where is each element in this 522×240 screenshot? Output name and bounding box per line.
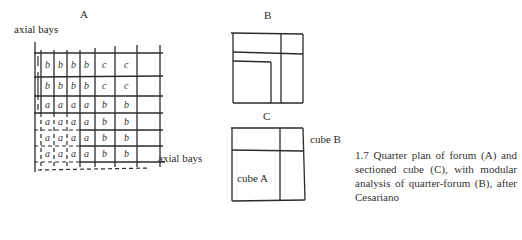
panel-b-diagram <box>231 33 303 103</box>
svg-text:b: b <box>58 59 63 70</box>
plan-a-grid <box>34 42 165 172</box>
svg-text:a: a <box>58 132 63 143</box>
svg-text:b: b <box>45 59 50 70</box>
svg-text:b: b <box>124 99 129 110</box>
svg-text:b: b <box>102 99 107 110</box>
svg-text:a: a <box>45 99 50 110</box>
svg-text:b: b <box>58 80 63 91</box>
svg-text:c: c <box>102 80 107 91</box>
svg-text:c: c <box>102 59 107 70</box>
svg-text:b: b <box>102 116 107 127</box>
svg-text:a: a <box>45 116 50 127</box>
svg-text:a: a <box>45 148 50 159</box>
svg-text:a: a <box>84 99 89 110</box>
svg-text:a: a <box>71 99 76 110</box>
svg-text:b: b <box>84 80 89 91</box>
svg-text:b: b <box>124 132 129 143</box>
svg-text:a: a <box>84 148 89 159</box>
svg-text:c: c <box>124 80 129 91</box>
svg-text:a: a <box>71 148 76 159</box>
svg-text:b: b <box>124 148 129 159</box>
svg-text:a: a <box>45 132 50 143</box>
svg-text:a: a <box>71 116 76 127</box>
svg-text:a: a <box>84 116 89 127</box>
svg-text:b: b <box>124 116 129 127</box>
svg-text:b: b <box>45 80 50 91</box>
svg-text:b: b <box>102 148 107 159</box>
svg-text:a: a <box>58 148 63 159</box>
svg-text:a: a <box>58 116 63 127</box>
panel-c-diagram <box>231 128 305 201</box>
svg-text:a: a <box>71 132 76 143</box>
svg-text:b: b <box>71 59 76 70</box>
svg-text:b: b <box>84 59 89 70</box>
figure-caption: 1.7 Quarter plan of forum (A) and sectio… <box>355 148 517 204</box>
svg-text:b: b <box>102 132 107 143</box>
svg-text:c: c <box>124 59 129 70</box>
svg-text:a: a <box>58 99 63 110</box>
svg-text:b: b <box>71 80 76 91</box>
plan-a-cell-letters: bb bb cc bb bb cc aa aa bb aa aa bb aa a… <box>45 59 129 159</box>
svg-text:a: a <box>84 132 89 143</box>
